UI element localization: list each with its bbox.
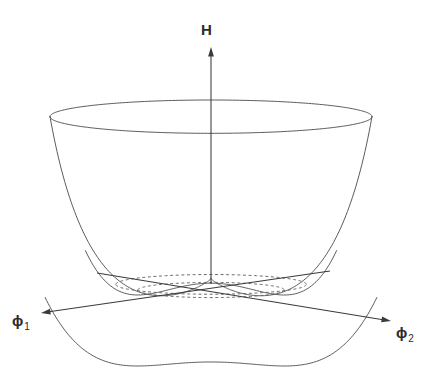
mexican-hat-potential-figure [0, 0, 434, 377]
axis-label-phi2: ϕ2 [396, 324, 414, 344]
phi1-symbol: ϕ [12, 312, 23, 329]
phi1-subscript: 1 [23, 321, 30, 332]
figure-background [0, 0, 434, 377]
axis-label-phi1: ϕ1 [12, 312, 30, 332]
axis-label-h: H [201, 21, 212, 38]
phi2-subscript: 2 [407, 333, 414, 344]
phi2-symbol: ϕ [396, 324, 407, 341]
